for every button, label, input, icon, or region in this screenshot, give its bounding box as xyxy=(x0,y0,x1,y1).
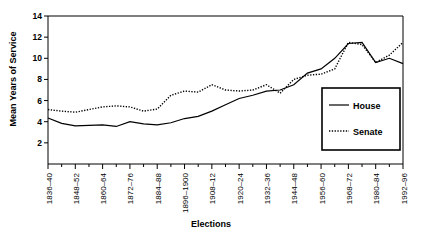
chart-legend: HouseSenate xyxy=(322,88,400,150)
x-tick-label: 1980–84 xyxy=(372,172,381,204)
y-tick-label: 6 xyxy=(37,96,42,106)
x-tick-label: 1872–76 xyxy=(126,172,135,204)
x-tick-label: 1968–72 xyxy=(345,172,354,204)
chart-figure: Mean Years of Service 2468101214 1836–40… xyxy=(0,0,422,236)
y-tick-label: 10 xyxy=(33,53,43,63)
x-tick-label: 1860–64 xyxy=(99,172,108,204)
x-tick-label: 1932–36 xyxy=(263,172,272,204)
y-tick-label: 2 xyxy=(37,138,42,148)
y-axis-title-wrap: Mean Years of Service xyxy=(10,164,11,165)
x-tick-label: 1920–24 xyxy=(236,172,245,204)
y-axis-title: Mean Years of Service xyxy=(6,0,20,164)
legend-label-senate: Senate xyxy=(353,127,383,137)
x-tick-label: 1944–48 xyxy=(290,172,299,204)
x-tick-label: 1896–1900 xyxy=(181,172,190,213)
y-tick-label: 8 xyxy=(37,74,42,84)
legend-label-house: House xyxy=(353,101,381,111)
x-tick-label: 1848–52 xyxy=(72,172,81,204)
x-tick-label: 1908–12 xyxy=(208,172,217,204)
x-tick-label: 1884–88 xyxy=(154,172,163,204)
line-chart-plot: 2468101214 1836–401848–521860–641872–761… xyxy=(0,0,422,236)
x-axis: 1836–401848–521860–641872–761884–881896–… xyxy=(45,164,409,213)
y-tick-label: 4 xyxy=(37,117,42,127)
x-tick-label: 1992–96 xyxy=(400,172,409,204)
x-tick-label: 1836–40 xyxy=(45,172,54,204)
x-tick-label: 1956–60 xyxy=(318,172,327,204)
y-tick-label: 12 xyxy=(33,32,43,42)
y-axis: 2468101214 xyxy=(33,11,48,148)
y-tick-label: 14 xyxy=(33,11,43,21)
x-axis-title: Elections xyxy=(0,219,422,229)
